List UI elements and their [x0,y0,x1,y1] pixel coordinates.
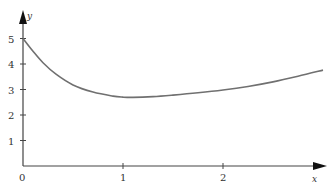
y-tick-label: 4 [8,59,14,70]
origin-label: 0 [19,172,25,183]
ticks [20,39,223,170]
tick-labels: 1234512 [8,34,226,184]
axes [19,10,327,170]
line-chart: 1234512 x y 0 [0,0,335,191]
y-tick-label: 1 [8,136,14,147]
y-axis-arrow-icon [19,10,27,24]
data-line [23,39,323,98]
x-tick-label: 2 [220,172,226,183]
y-tick-label: 5 [8,34,14,45]
x-axis-arrow-icon [313,162,327,170]
y-axis-label: y [26,11,33,21]
x-tick-label: 1 [120,172,126,183]
y-tick-label: 2 [8,110,14,121]
y-tick-label: 3 [8,85,14,96]
x-axis-label: x [312,174,317,184]
